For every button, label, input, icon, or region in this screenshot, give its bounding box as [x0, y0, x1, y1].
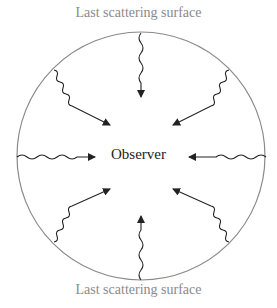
ray-lower-left [54, 189, 110, 242]
ray-upper-left [54, 70, 110, 125]
ray-bottom [139, 216, 143, 280]
ray-upper-right [173, 70, 229, 125]
observer-label: Observer [0, 146, 277, 163]
ray-top [139, 33, 143, 97]
bottom-surface-label: Last scattering surface [0, 282, 277, 298]
ray-lower-right [173, 189, 229, 242]
